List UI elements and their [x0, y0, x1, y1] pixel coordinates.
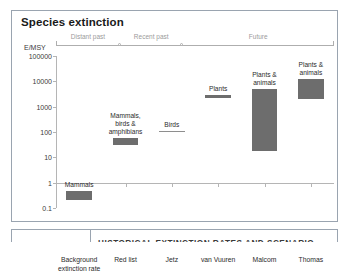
data-bar-van-vuuren	[205, 95, 231, 98]
data-marker-jetz	[159, 131, 185, 132]
y-tick-mark-2	[53, 107, 56, 108]
data-bar-background-extinction-rate	[66, 191, 92, 200]
data-bar-malcom	[252, 89, 278, 152]
x-tick-3	[218, 183, 219, 187]
page-title: Species extinction	[21, 16, 124, 28]
timeline-label-1: Recent past	[134, 33, 169, 40]
x-axis-category-5: Thomas	[281, 256, 341, 265]
slide-frame: Species extinction E/MSY Distant pastRec…	[11, 10, 338, 222]
y-tick-label-0: 100000	[29, 53, 52, 60]
y-tick-label-6: 0.1	[42, 205, 52, 212]
y-tick-mark-6	[53, 208, 56, 209]
data-label-2: Birds	[150, 121, 194, 129]
timeline-label-2: Future	[249, 33, 268, 40]
y-tick-label-3: 100	[40, 129, 52, 136]
caption-text: HISTORICAL EXTINCTION RATES AND SCENARIO	[98, 239, 314, 242]
x-tick-0	[79, 183, 80, 187]
y-tick-label-5: 1	[48, 179, 52, 186]
y-tick-label-2: 1000	[36, 103, 52, 110]
x-tick-2	[172, 183, 173, 187]
y-tick-mark-0	[53, 56, 56, 57]
data-label-3: Plants	[196, 85, 240, 93]
timeline-bracket: Distant pastRecent pastFuture	[56, 33, 334, 49]
y-tick-label-1: 10000	[33, 78, 52, 85]
timeline-label-0: Distant past	[71, 33, 105, 40]
data-bar-thomas	[298, 79, 324, 99]
timeline-axis-line	[56, 45, 334, 46]
y-tick-mark-4	[53, 157, 56, 158]
caption-divider	[90, 230, 91, 242]
y-tick-mark-1	[53, 81, 56, 82]
timeline-node-1	[118, 43, 121, 46]
x-tick-4	[265, 183, 266, 187]
timeline-end-tick-1	[333, 41, 334, 46]
x-tick-1	[126, 183, 127, 187]
timeline-end-tick-0	[56, 41, 57, 46]
data-label-5: Plants & animals	[289, 61, 333, 77]
caption-band: HISTORICAL EXTINCTION RATES AND SCENARIO	[11, 229, 338, 242]
data-label-1: Mammals, birds & amphibians	[103, 112, 147, 136]
data-bar-red-list	[113, 138, 139, 146]
y-tick-label-4: 10	[44, 154, 52, 161]
plot-area: 1000001000010001001010.1 MammalsMammals,…	[56, 56, 334, 208]
data-label-4: Plants & animals	[242, 71, 286, 87]
y-axis-unit-label: E/MSY	[24, 44, 46, 51]
y-tick-mark-3	[53, 132, 56, 133]
x-tick-5	[311, 183, 312, 187]
